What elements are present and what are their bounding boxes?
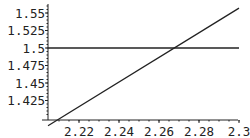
y-tick-label: 1.525 — [7, 23, 45, 38]
plot-series — [48, 8, 239, 126]
y-tick-label: 1.55 — [15, 6, 45, 21]
x-tick-label: 2.3 — [228, 124, 250, 138]
x-tick-label: 2.24 — [104, 124, 134, 138]
y-axis: 1.4251.451.4751.51.5251.55 — [7, 4, 48, 120]
x-tick-label: 2.26 — [144, 124, 174, 138]
x-tick-label: 2.22 — [64, 124, 94, 138]
x-axis: 2.222.242.262.282.3 — [42, 120, 250, 138]
y-tick-label: 1.475 — [7, 58, 45, 73]
y-tick-label: 1.425 — [7, 93, 45, 108]
chart: 1.4251.451.4751.51.5251.55 2.222.242.262… — [0, 0, 250, 138]
y-tick-label: 1.45 — [15, 76, 45, 91]
y-tick-label: 1.5 — [22, 41, 45, 56]
x-tick-label: 2.28 — [184, 124, 214, 138]
increasing-line-series — [48, 8, 239, 126]
